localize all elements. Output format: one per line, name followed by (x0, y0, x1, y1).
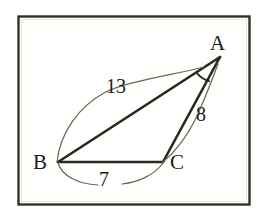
measure-label-ac: 8 (196, 104, 206, 124)
geometry-figure: A B C 13 8 7 (0, 0, 268, 221)
triangle-diagram-canvas (0, 0, 268, 221)
vertex-label-c: C (170, 152, 184, 173)
measure-label-ab: 13 (106, 76, 126, 96)
measure-label-bc: 7 (99, 169, 109, 189)
vertex-label-b: B (33, 152, 47, 173)
vertex-label-a: A (210, 33, 225, 54)
